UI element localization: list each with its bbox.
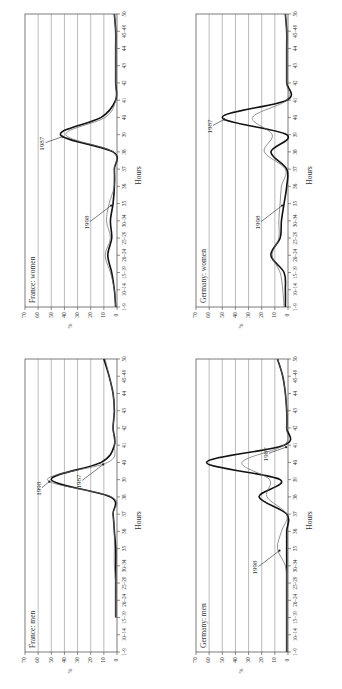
chart-france-men: 010203040506070%1–910–1415–1920–2425–293…	[0, 345, 171, 679]
svg-text:60: 60	[205, 657, 211, 663]
svg-text:20: 20	[258, 657, 264, 663]
svg-text:10–14: 10–14	[121, 628, 127, 641]
svg-text:50: 50	[121, 11, 127, 17]
svg-text:25–29: 25–29	[121, 576, 127, 589]
svg-text:%: %	[238, 669, 244, 674]
svg-text:37: 37	[292, 166, 298, 172]
svg-text:40: 40	[121, 114, 127, 120]
svg-text:41: 41	[121, 97, 127, 103]
svg-text:45–49: 45–49	[292, 24, 298, 37]
series-1987	[51, 359, 116, 618]
svg-text:30: 30	[74, 312, 80, 318]
svg-text:41: 41	[292, 97, 298, 103]
svg-text:50: 50	[292, 356, 298, 362]
svg-text:1987: 1987	[75, 474, 83, 489]
svg-text:50: 50	[48, 312, 54, 318]
svg-text:44: 44	[121, 45, 127, 51]
svg-text:%: %	[67, 324, 73, 329]
svg-text:%: %	[238, 324, 244, 329]
series-1998	[252, 14, 289, 307]
svg-text:43: 43	[121, 408, 127, 414]
svg-text:50: 50	[48, 657, 54, 663]
svg-text:1–9: 1–9	[121, 648, 127, 656]
svg-text:35: 35	[121, 201, 127, 207]
svg-text:0: 0	[284, 658, 290, 661]
svg-text:43: 43	[292, 63, 298, 69]
svg-text:37: 37	[121, 511, 127, 517]
svg-text:0: 0	[284, 313, 290, 316]
svg-text:39: 39	[292, 477, 298, 483]
svg-text:0: 0	[113, 313, 119, 316]
svg-text:20: 20	[87, 312, 93, 318]
svg-text:35: 35	[292, 201, 298, 207]
svg-text:20: 20	[87, 657, 93, 663]
svg-text:50: 50	[219, 657, 225, 663]
svg-text:20–24: 20–24	[292, 248, 298, 261]
svg-text:1–9: 1–9	[292, 303, 298, 311]
svg-text:Germany: men: Germany: men	[199, 603, 208, 648]
svg-text:Hours: Hours	[134, 166, 143, 184]
svg-text:Germany: women: Germany: women	[199, 249, 208, 303]
svg-text:36: 36	[121, 183, 127, 189]
svg-text:1–9: 1–9	[121, 303, 127, 311]
svg-text:20–24: 20–24	[121, 248, 127, 261]
svg-text:35: 35	[292, 546, 298, 552]
chart-france-women: 010203040506070%1–910–1415–1920–2425–293…	[0, 0, 171, 334]
svg-text:45–49: 45–49	[121, 369, 127, 382]
svg-text:30: 30	[245, 657, 251, 663]
chart-germany-men: 010203040506070%1–910–1415–1920–2425–293…	[171, 345, 342, 679]
svg-text:39: 39	[121, 477, 127, 483]
svg-text:1998: 1998	[254, 215, 262, 230]
svg-text:45–49: 45–49	[292, 369, 298, 382]
svg-text:43: 43	[121, 63, 127, 69]
svg-text:40: 40	[292, 459, 298, 465]
svg-text:30: 30	[74, 657, 80, 663]
svg-text:Hours: Hours	[305, 511, 314, 529]
svg-text:25–29: 25–29	[292, 576, 298, 589]
svg-text:10–14: 10–14	[292, 628, 298, 641]
svg-text:44: 44	[121, 390, 127, 396]
svg-text:30–34: 30–34	[121, 214, 127, 227]
svg-text:1987: 1987	[38, 136, 46, 151]
svg-text:42: 42	[121, 80, 127, 86]
svg-text:70: 70	[21, 657, 27, 663]
svg-text:42: 42	[292, 425, 298, 431]
svg-text:10: 10	[100, 312, 106, 318]
svg-text:37: 37	[292, 511, 298, 517]
svg-text:1998: 1998	[251, 560, 259, 575]
svg-text:10: 10	[271, 657, 277, 663]
svg-text:50: 50	[219, 312, 225, 318]
svg-text:42: 42	[121, 425, 127, 431]
svg-text:50: 50	[121, 356, 127, 362]
svg-text:36: 36	[292, 183, 298, 189]
svg-text:50: 50	[292, 11, 298, 17]
svg-text:France: women: France: women	[28, 256, 37, 303]
chart-svg: 010203040506070%1–910–1415–1920–2425–293…	[0, 0, 171, 334]
svg-text:42: 42	[292, 80, 298, 86]
svg-text:40: 40	[61, 657, 67, 663]
svg-text:36: 36	[121, 528, 127, 534]
svg-text:10: 10	[100, 657, 106, 663]
svg-text:10: 10	[271, 312, 277, 318]
svg-text:70: 70	[192, 657, 198, 663]
chart-svg: 010203040506070%1–910–1415–1920–2425–293…	[171, 345, 342, 679]
svg-text:38: 38	[292, 494, 298, 500]
svg-text:20–24: 20–24	[292, 593, 298, 606]
svg-text:Hours: Hours	[134, 511, 143, 529]
series-1987	[222, 14, 291, 307]
svg-text:38: 38	[121, 494, 127, 500]
svg-text:40: 40	[121, 459, 127, 465]
chart-svg: 010203040506070%1–910–1415–1920–2425–293…	[0, 345, 171, 679]
svg-text:%: %	[67, 669, 73, 674]
svg-text:20–24: 20–24	[121, 593, 127, 606]
svg-text:15–19: 15–19	[292, 266, 298, 279]
svg-text:60: 60	[34, 657, 40, 663]
svg-text:37: 37	[121, 166, 127, 172]
svg-text:10–14: 10–14	[121, 283, 127, 296]
svg-text:20: 20	[258, 312, 264, 318]
svg-text:38: 38	[121, 149, 127, 155]
svg-text:Hours: Hours	[305, 166, 314, 184]
series-1987	[60, 14, 117, 307]
svg-text:30: 30	[245, 312, 251, 318]
svg-text:45–49: 45–49	[121, 24, 127, 37]
